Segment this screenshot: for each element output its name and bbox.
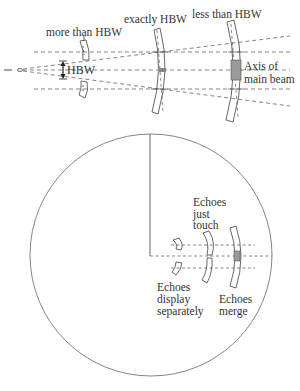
label-hbw: HBW [67,64,95,76]
label-echoes-merge-2: merge [219,305,248,317]
target-pair-exactly-hbw [151,28,168,114]
label-echoes-separate-1: Echoes [157,281,190,293]
label-axis-of-main-beam-1: Axis of [244,60,278,72]
label-more-than-hbw: more than HBW [46,26,122,38]
label-echoes-just-touch-3: touch [193,219,219,231]
label-less-than-hbw: less than HBW [192,8,262,20]
label-echoes-just-touch-1: Echoes [193,196,226,208]
target-pair-less-than-hbw [226,20,244,122]
merged-echo-overlap [231,60,241,80]
beamwidth-diagram [0,0,300,391]
label-exactly-hbw: exactly HBW [124,13,187,25]
label-echoes-separate-3: separately [157,305,204,317]
echoes-just-touch [202,231,213,283]
label-echoes-separate-2: display [157,293,190,305]
radar-source-icon [4,69,23,72]
echoes-merge [230,226,241,288]
ppi-display [30,134,272,376]
label-echoes-merge-1: Echoes [219,293,252,305]
merged-echo-overlap-ppi [234,251,240,261]
echoes-separate [172,238,182,275]
label-axis-of-main-beam-2: main beam [244,73,295,85]
